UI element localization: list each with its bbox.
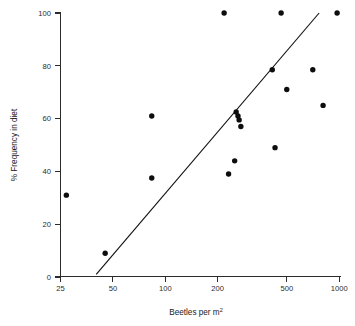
x-tick-label: 1000	[331, 284, 348, 293]
data-point	[149, 175, 154, 180]
data-point	[64, 192, 69, 197]
data-point	[102, 251, 107, 256]
data-point	[232, 158, 237, 163]
plot-canvas: 100 80 60 40 20 0 25 50 100 200 500 1000…	[0, 0, 355, 326]
data-point	[272, 145, 277, 150]
x-axis-tick-labels: 25 50 100 200 500 1000	[56, 284, 347, 293]
x-tick-label: 50	[109, 284, 117, 293]
data-point	[236, 117, 241, 122]
data-point	[278, 10, 283, 15]
data-point	[238, 124, 243, 129]
y-axis-tick-labels: 100 80 60 40 20 0	[38, 9, 51, 282]
data-point	[221, 10, 226, 15]
regression-fit-line	[96, 13, 319, 274]
data-point	[226, 171, 231, 176]
data-point	[320, 103, 325, 108]
x-axis-ticks	[61, 277, 340, 283]
scatter-plot-figure: 100 80 60 40 20 0 25 50 100 200 500 1000…	[0, 0, 355, 326]
data-point	[334, 10, 339, 15]
x-axis-title-main: Beetles per m	[169, 308, 220, 317]
data-point	[270, 67, 275, 72]
y-tick-label: 60	[43, 114, 51, 123]
x-axis-title-exponent: 2	[220, 307, 223, 313]
x-tick-label: 25	[56, 284, 64, 293]
x-tick-label: 500	[281, 284, 294, 293]
x-axis-title: Beetles per m2	[169, 307, 223, 317]
y-axis-ticks	[55, 13, 61, 277]
y-axis-title: % Frequency in diet	[10, 108, 19, 181]
data-point	[310, 67, 315, 72]
y-tick-label: 40	[43, 167, 51, 176]
y-tick-label: 0	[47, 273, 51, 282]
y-tick-label: 80	[43, 62, 51, 71]
x-tick-label: 200	[211, 284, 224, 293]
data-point	[149, 113, 154, 118]
data-point	[284, 87, 289, 92]
y-tick-label: 100	[38, 9, 51, 18]
y-tick-label: 20	[43, 220, 51, 229]
data-points-group	[64, 10, 340, 256]
x-tick-label: 100	[159, 284, 172, 293]
